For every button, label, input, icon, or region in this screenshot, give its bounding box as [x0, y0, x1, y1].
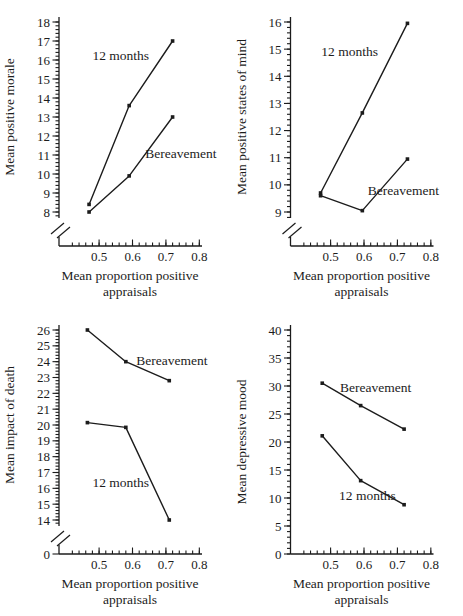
x-axis-title-line1: Mean proportion positive	[61, 576, 198, 591]
y-tick-label: 9	[44, 186, 51, 201]
y-tick-label: 11	[37, 148, 50, 163]
y-tick-label: 20	[37, 418, 50, 433]
y-tick-label: 40	[269, 323, 282, 338]
x-tick-label: 0.8	[423, 557, 439, 572]
y-axis-title: Mean depressive mood	[234, 379, 249, 504]
chart-impact-of-death: 0.50.60.70.8141516171819202122232425260M…	[0, 308, 231, 616]
y-tick-label: 8	[44, 205, 51, 220]
y-tick-label: 12	[37, 129, 50, 144]
y-tick-label: 16	[37, 53, 51, 68]
y-tick-label: 14	[37, 513, 51, 528]
data-point-marker	[87, 203, 91, 207]
y-tick-label: 24	[37, 354, 51, 369]
data-point-marker	[167, 518, 171, 522]
x-tick-label: 0.5	[322, 557, 338, 572]
data-point-marker	[86, 328, 90, 332]
y-zero-label: 0	[44, 547, 51, 562]
chart-positive-states-of-mind: 0.50.60.70.8910111213141516Mean positive…	[231, 0, 463, 308]
x-tick-label: 0.6	[124, 557, 141, 572]
y-axis-title: Mean impact of death	[2, 366, 17, 484]
series-label: 12 months	[321, 44, 378, 59]
x-tick-label: 0.6	[356, 249, 373, 264]
y-tick-label: 18	[37, 449, 50, 464]
x-tick-label: 0.6	[356, 557, 373, 572]
y-tick-label: 30	[269, 379, 282, 394]
series-label: 12 months	[92, 475, 149, 490]
series-line	[89, 41, 173, 204]
x-tick-label: 0.5	[322, 249, 338, 264]
x-tick-label: 0.7	[389, 249, 406, 264]
x-axis-title-line2: appraisals	[335, 592, 389, 607]
x-axis-title-line2: appraisals	[335, 284, 389, 299]
y-tick-label: 21	[37, 402, 50, 417]
data-point-marker	[402, 427, 406, 431]
four-panel-figure: 0.50.60.70.889101112131415161718Mean pos…	[0, 0, 463, 616]
data-point-marker	[319, 194, 323, 198]
data-point-marker	[402, 503, 406, 507]
y-tick-label: 11	[269, 150, 282, 165]
data-point-marker	[124, 360, 128, 364]
y-tick-label: 15	[269, 463, 282, 478]
series-line	[89, 117, 173, 212]
data-point-marker	[127, 104, 131, 108]
chart-depressive-mood: 0.50.60.70.80510152025303540Mean depress…	[231, 308, 463, 616]
x-axis-title-line2: appraisals	[103, 592, 157, 607]
y-tick-label: 10	[37, 167, 50, 182]
y-tick-label: 10	[269, 177, 282, 192]
series-label: Bereavement	[145, 146, 216, 161]
y-tick-label: 23	[37, 370, 50, 385]
y-tick-label: 14	[37, 91, 51, 106]
data-point-marker	[87, 210, 91, 214]
x-axis-title-line1: Mean proportion positive	[61, 268, 198, 283]
y-tick-label: 22	[37, 386, 50, 401]
y-tick-label: 35	[269, 351, 282, 366]
y-tick-label: 10	[269, 491, 282, 506]
series-line	[87, 423, 169, 520]
x-tick-label: 0.8	[423, 249, 439, 264]
y-tick-label: 17	[37, 465, 51, 480]
data-point-marker	[361, 111, 365, 115]
y-tick-label: 16	[269, 15, 283, 30]
data-point-marker	[320, 381, 324, 385]
data-point-marker	[359, 404, 363, 408]
data-point-marker	[320, 434, 324, 438]
data-point-marker	[124, 426, 128, 430]
x-tick-label: 0.7	[389, 557, 406, 572]
series-label: Bereavement	[340, 380, 411, 395]
y-tick-label: 20	[269, 435, 282, 450]
series-label: 12 months	[92, 48, 149, 63]
y-tick-label: 9	[275, 205, 282, 220]
panel-positive-states-of-mind: 0.50.60.70.8910111213141516Mean positive…	[231, 0, 463, 308]
y-axis-title: Mean positive morale	[2, 58, 17, 176]
data-point-marker	[171, 39, 175, 43]
axis-break-icon	[289, 227, 302, 238]
y-tick-label: 5	[275, 519, 282, 534]
y-tick-label: 26	[37, 323, 51, 338]
y-tick-label: 0	[275, 547, 282, 562]
series-label: Bereavement	[136, 353, 207, 368]
x-axis-title-line1: Mean proportion positive	[293, 576, 430, 591]
y-tick-label: 13	[269, 96, 282, 111]
x-axis-title-line1: Mean proportion positive	[293, 268, 430, 283]
chart-positive-morale: 0.50.60.70.889101112131415161718Mean pos…	[0, 0, 231, 308]
data-point-marker	[406, 157, 410, 161]
y-tick-label: 12	[269, 123, 282, 138]
x-tick-label: 0.7	[158, 557, 175, 572]
y-tick-label: 15	[269, 42, 282, 57]
panel-positive-morale: 0.50.60.70.889101112131415161718Mean pos…	[0, 0, 231, 308]
data-point-marker	[127, 174, 131, 178]
y-tick-label: 17	[37, 34, 51, 49]
x-tick-label: 0.5	[91, 557, 107, 572]
y-tick-label: 15	[37, 72, 50, 87]
data-point-marker	[86, 421, 90, 425]
series-label: Bereavement	[368, 183, 439, 198]
y-tick-label: 25	[37, 338, 50, 353]
axis-break-icon	[283, 223, 296, 234]
x-tick-label: 0.6	[124, 249, 141, 264]
y-tick-label: 19	[37, 433, 50, 448]
x-tick-label: 0.8	[191, 557, 207, 572]
series-label: 12 months	[339, 488, 396, 503]
y-tick-label: 18	[37, 15, 50, 30]
axis-break-icon	[51, 223, 64, 234]
axis-break-icon	[57, 227, 70, 238]
